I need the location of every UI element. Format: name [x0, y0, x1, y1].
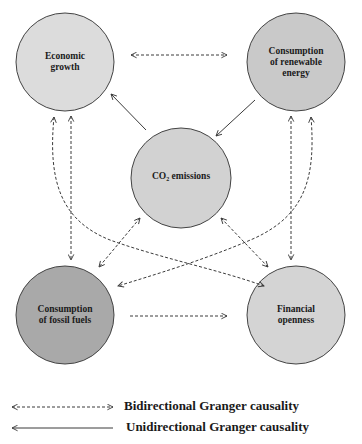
label-financial-openness: Financial openness — [277, 304, 315, 326]
label-line: energy — [269, 68, 324, 79]
label-fossil-fuels: Consumption of fossil fuels — [38, 304, 93, 326]
label-line: Economic — [45, 51, 85, 62]
label-economic-growth: Economic growth — [45, 51, 85, 73]
legend-unidirectional-text: Unidirectional Granger causality — [126, 419, 309, 435]
label-line: of fossil fuels — [38, 315, 93, 326]
label-line: Consumption — [269, 46, 324, 57]
label-co2-emissions: CO2 emissions — [152, 171, 210, 186]
label-line: Consumption — [38, 304, 93, 315]
edge-renewable-co2 — [216, 100, 255, 136]
label-line: Financial — [277, 304, 315, 315]
legend-bidirectional-text: Bidirectional Granger causality — [124, 398, 299, 414]
edge-co2-fossil — [99, 218, 140, 267]
label-line: growth — [45, 62, 85, 73]
label-co: CO — [152, 171, 166, 181]
label-rest: emissions — [169, 171, 210, 181]
label-renewable-energy: Consumption of renewable energy — [269, 46, 324, 79]
legend-unidirectional: Unidirectional Granger causality — [0, 419, 362, 439]
legend-bidirectional: Bidirectional Granger causality — [0, 398, 362, 418]
label-line: of renewable — [269, 57, 324, 68]
label-line: openness — [277, 315, 315, 326]
edge-co2-econ — [111, 94, 146, 130]
